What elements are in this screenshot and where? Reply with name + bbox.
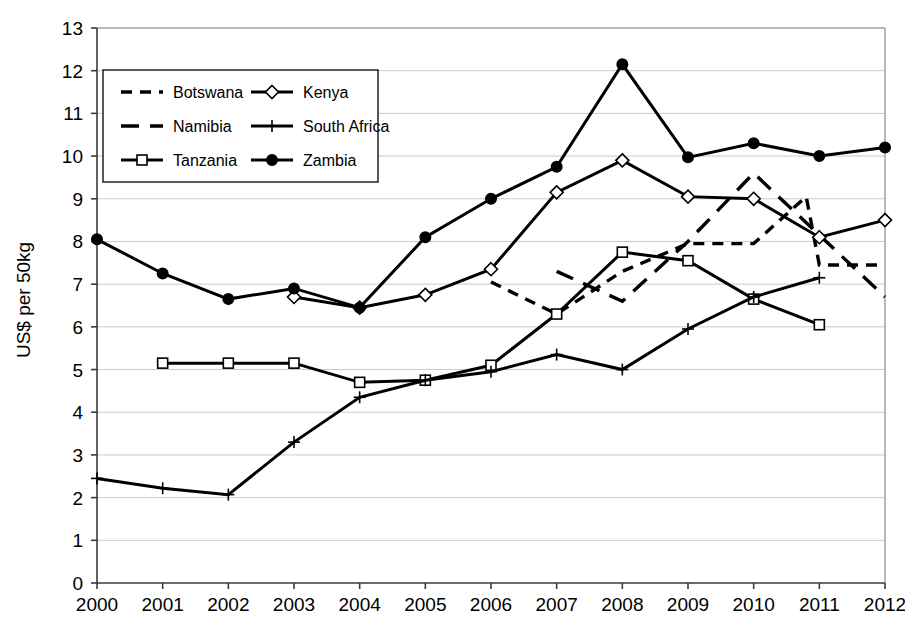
legend-item-label: Kenya (303, 84, 348, 101)
legend-item-label: South Africa (303, 118, 389, 135)
data-point-marker (223, 358, 233, 368)
x-tick-label: 2003 (273, 594, 315, 615)
x-tick-label: 2009 (667, 594, 709, 615)
y-tick-label: 7 (72, 274, 83, 295)
y-tick-label: 11 (63, 103, 83, 124)
legend-item-label: Namibia (173, 118, 232, 135)
x-tick-label: 2006 (470, 594, 512, 615)
legend-item-label: Zambia (303, 152, 356, 169)
chart-container: 012345678910111213 200020012002200320042… (0, 0, 905, 641)
data-point-marker (748, 138, 758, 148)
x-tick-label: 2010 (733, 594, 775, 615)
data-point-marker (880, 142, 890, 152)
data-point-marker (486, 194, 496, 204)
y-axis-title: US$ per 50kg (13, 242, 34, 358)
y-tick-label: 9 (72, 189, 83, 210)
x-tick-label: 2002 (207, 594, 249, 615)
x-tick-label: 2005 (404, 594, 446, 615)
data-point-marker (420, 232, 430, 242)
y-tick-label: 0 (72, 573, 83, 594)
data-point-marker (92, 234, 102, 244)
data-point-marker (355, 377, 365, 387)
data-point-marker (683, 152, 693, 162)
x-tick-label: 2004 (339, 594, 382, 615)
data-point-marker (617, 247, 627, 257)
x-tick-label: 2000 (76, 594, 118, 615)
data-point-marker (814, 151, 824, 161)
data-point-marker (289, 283, 299, 293)
data-point-marker (617, 59, 627, 69)
data-point-marker (551, 162, 561, 172)
y-tick-label: 10 (62, 146, 83, 167)
data-point-marker (223, 294, 233, 304)
y-tick-label: 2 (72, 488, 83, 509)
x-tick-label: 2007 (536, 594, 578, 615)
y-tick-label: 12 (62, 61, 83, 82)
data-point-marker (683, 256, 693, 266)
y-tick-label: 1 (72, 530, 83, 551)
x-tick-label: 2008 (601, 594, 643, 615)
data-point-marker (354, 302, 364, 312)
line-chart: 012345678910111213 200020012002200320042… (0, 0, 905, 641)
data-point-marker (158, 358, 168, 368)
y-tick-label: 3 (72, 445, 83, 466)
x-tick-label: 2012 (864, 594, 905, 615)
y-tick-label: 13 (62, 18, 83, 39)
x-tick-label: 2011 (799, 594, 840, 615)
y-tick-label: 5 (72, 360, 83, 381)
data-point-marker (814, 320, 824, 330)
data-point-marker (289, 358, 299, 368)
data-point-marker (137, 155, 147, 165)
y-tick-label: 4 (72, 402, 83, 423)
chart-legend: BotswanaKenyaNamibiaSouth AfricaTanzania… (103, 70, 389, 182)
data-point-marker (552, 309, 562, 319)
legend-item-label: Botswana (173, 84, 243, 101)
data-point-marker (267, 155, 277, 165)
legend-item-label: Tanzania (173, 152, 237, 169)
x-tick-label: 2001 (142, 594, 184, 615)
data-point-marker (157, 268, 167, 278)
y-tick-label: 6 (72, 317, 83, 338)
y-tick-label: 8 (72, 231, 83, 252)
